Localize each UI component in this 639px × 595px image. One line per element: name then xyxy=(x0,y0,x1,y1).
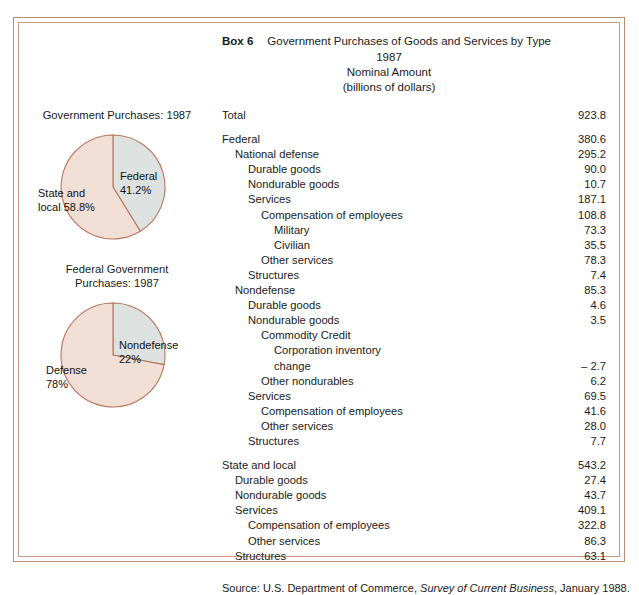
box-subhead-units: (billions of dollars) xyxy=(222,80,614,95)
table-row-value: 108.8 xyxy=(540,208,614,223)
table-row-value: – 2.7 xyxy=(540,359,614,374)
table-row: Federal380.6 xyxy=(222,132,614,147)
table-row-label: Other services xyxy=(222,534,540,549)
table-row-value: 28.0 xyxy=(540,419,614,434)
table-row: Nondurable goods3.5 xyxy=(222,313,614,328)
table-row-label: Structures xyxy=(222,549,540,564)
table-row-value: 6.2 xyxy=(540,374,614,389)
table-row-label: Federal xyxy=(222,132,540,147)
source-publication-title: Survey of Current Business xyxy=(420,582,554,594)
table-row-value: 35.5 xyxy=(540,238,614,253)
table-row-value: 73.3 xyxy=(540,223,614,238)
table-row-label: Nondurable goods xyxy=(222,177,540,192)
table-row-value: 380.6 xyxy=(540,132,614,147)
table-row-label: Military xyxy=(222,223,540,238)
pie-chart-1-title: Government Purchases: 1987 xyxy=(24,108,210,122)
box-number-label: Box 6 xyxy=(222,35,253,47)
table-row: Commodity Credit xyxy=(222,328,614,343)
pie-chart-1-graphic: Federal 41.2% State and local 58.8% xyxy=(24,130,210,248)
pie-chart-federal-purchases: Federal Government Purchases: 1987 Nonde… xyxy=(24,262,210,416)
table-row-label: Structures xyxy=(222,434,540,449)
table-row: Total923.8 xyxy=(222,108,614,123)
table-row-value: 543.2 xyxy=(540,458,614,473)
pie-charts-column: Government Purchases: 1987 Federal 41.2%… xyxy=(24,108,210,416)
table-row-value: 69.5 xyxy=(540,389,614,404)
table-row-value: 3.5 xyxy=(540,313,614,328)
table-row: Other services78.3 xyxy=(222,253,614,268)
box-subhead-measure: Nominal Amount xyxy=(222,65,614,80)
table-row-label: Services xyxy=(222,389,540,404)
table-row-label: Nondurable goods xyxy=(222,313,540,328)
table-row-label: Durable goods xyxy=(222,298,540,313)
table-row-value: 90.0 xyxy=(540,162,614,177)
table-row: Nondurable goods10.7 xyxy=(222,177,614,192)
table-row: Other nondurables6.2 xyxy=(222,374,614,389)
table-row-value: 85.3 xyxy=(540,283,614,298)
table-row-label: Commodity Credit xyxy=(222,328,540,343)
table-row: Services69.5 xyxy=(222,389,614,404)
table-row-label: Durable goods xyxy=(222,473,540,488)
table-row-label: Services xyxy=(222,503,540,518)
table-row: Structures63.1 xyxy=(222,549,614,564)
box-subhead-year: 1987 xyxy=(222,50,614,65)
pie-1-label-federal: Federal 41.2% xyxy=(120,170,157,197)
table-row-value: 409.1 xyxy=(540,503,614,518)
table-row: Other services28.0 xyxy=(222,419,614,434)
table-row: Services187.1 xyxy=(222,192,614,207)
source-suffix: , January 1988. xyxy=(554,582,630,594)
table-row-value: 187.1 xyxy=(540,192,614,207)
table-row-label: Other services xyxy=(222,253,540,268)
table-row: National defense295.2 xyxy=(222,147,614,162)
table-row-value: 63.1 xyxy=(540,549,614,564)
table-row-value: 7.7 xyxy=(540,434,614,449)
table-row: Military73.3 xyxy=(222,223,614,238)
pie-1-label-state-local: State and local 58.8% xyxy=(38,187,95,214)
table-row: Durable goods90.0 xyxy=(222,162,614,177)
table-row: Structures7.7 xyxy=(222,434,614,449)
table-row-value: 10.7 xyxy=(540,177,614,192)
table-row-value: 78.3 xyxy=(540,253,614,268)
pie-2-label-defense: Defense 78% xyxy=(46,364,87,391)
table-row-label: Compensation of employees xyxy=(222,518,540,533)
source-note: Source: U.S. Department of Commerce, Sur… xyxy=(222,581,614,595)
table-row-value: 86.3 xyxy=(540,534,614,549)
table-row-label: Structures xyxy=(222,268,540,283)
table-row-spacer xyxy=(222,449,614,458)
table-row-spacer xyxy=(222,123,614,132)
pie-chart-2-graphic: Nondefense 22% Defense 78% xyxy=(24,298,210,416)
table-row-label: change xyxy=(222,359,540,374)
table-row-label: Durable goods xyxy=(222,162,540,177)
table-row-label: Services xyxy=(222,192,540,207)
data-table-panel: Box 6Government Purchases of Goods and S… xyxy=(222,34,614,595)
table-row: Services409.1 xyxy=(222,503,614,518)
table-row-value: 295.2 xyxy=(540,147,614,162)
table-row-label: State and local xyxy=(222,458,540,473)
table-row: Compensation of employees108.8 xyxy=(222,208,614,223)
table-rows: Total923.8Federal380.6National defense29… xyxy=(222,108,614,564)
table-row-label: Civilian xyxy=(222,238,540,253)
table-row-label: Other services xyxy=(222,419,540,434)
table-row: Nondurable goods43.7 xyxy=(222,488,614,503)
table-row-label: Corporation inventory xyxy=(222,343,540,358)
table-row-label: Total xyxy=(222,108,540,123)
pie-chart-2-title: Federal Government Purchases: 1987 xyxy=(24,262,210,290)
table-row-value: 923.8 xyxy=(540,108,614,123)
table-row: Structures7.4 xyxy=(222,268,614,283)
table-row-value: 7.4 xyxy=(540,268,614,283)
scan-edge-artifact xyxy=(180,1,480,11)
table-row: Compensation of employees41.6 xyxy=(222,404,614,419)
table-row-label: Other nondurables xyxy=(222,374,540,389)
table-row: Other services86.3 xyxy=(222,534,614,549)
table-row: State and local543.2 xyxy=(222,458,614,473)
table-row-label: Compensation of employees xyxy=(222,208,540,223)
table-row: Civilian35.5 xyxy=(222,238,614,253)
source-prefix: Source: U.S. Department of Commerce, xyxy=(222,582,420,594)
pie-2-label-nondefense: Nondefense 22% xyxy=(119,339,178,366)
table-row-value: 41.6 xyxy=(540,404,614,419)
table-row-value: 4.6 xyxy=(540,298,614,313)
table-row-label: National defense xyxy=(222,147,540,162)
table-row-label: Compensation of employees xyxy=(222,404,540,419)
pie-2-svg xyxy=(24,298,210,416)
table-row: Durable goods4.6 xyxy=(222,298,614,313)
